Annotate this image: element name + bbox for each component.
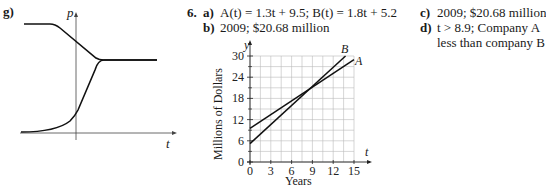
y-axis-letter: y [244,38,249,53]
svg-text:12: 12 [232,113,244,127]
svg-text:12: 12 [327,164,339,178]
svg-text:3: 3 [268,164,274,178]
series-b-label: B [341,42,348,57]
svg-text:30: 30 [232,49,244,63]
series-a-label: A [355,54,362,69]
x-axis-title: Years [285,174,312,189]
svg-text:6: 6 [238,134,244,148]
y-axis-title: Millions of Dollars [211,68,226,160]
svg-text:24: 24 [232,70,244,84]
svg-text:0: 0 [247,164,253,178]
t-axis-letter: t [365,145,368,160]
svg-text:15: 15 [348,164,360,178]
svg-text:0: 0 [238,155,244,169]
svg-text:18: 18 [232,91,244,105]
